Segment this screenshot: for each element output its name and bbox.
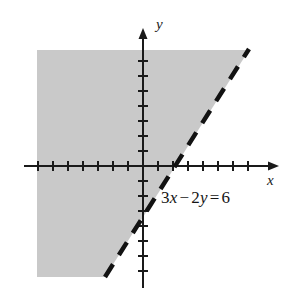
x-axis-arrow-icon: [268, 162, 279, 171]
equation-label: 3x−2y=6: [161, 189, 230, 206]
equation-coef-y: 2: [191, 188, 200, 207]
equation-var-y: y: [200, 188, 208, 207]
x-axis-label: x: [267, 173, 274, 188]
equation-rhs: 6: [222, 188, 231, 207]
coordinate-plane: [0, 0, 297, 296]
y-axis-arrow-icon: [139, 28, 148, 39]
equation-equals-sign: =: [208, 188, 222, 207]
equation-coef-x: 3: [161, 188, 170, 207]
equation-minus-sign: −: [177, 188, 191, 207]
y-axis-label: y: [156, 17, 163, 32]
inequality-graph-figure: y x 3x−2y=6: [0, 0, 297, 296]
